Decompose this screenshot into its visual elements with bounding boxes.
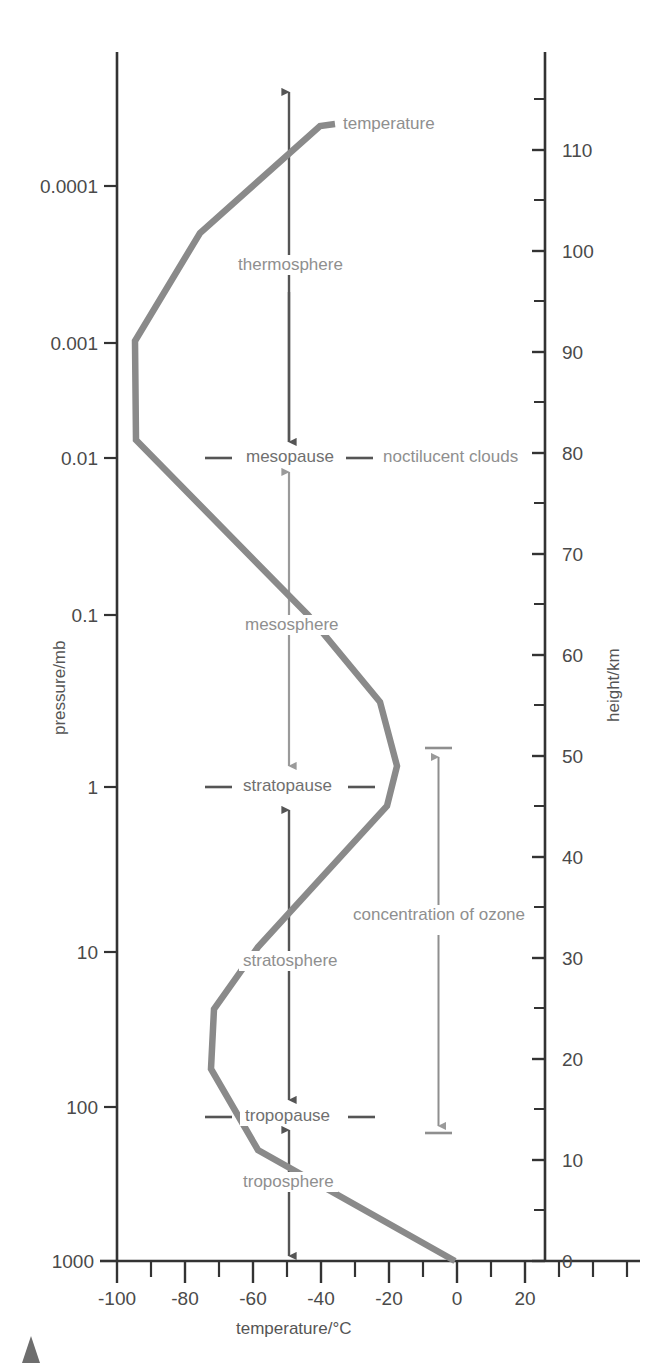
y-right-tick-50: 50 [562, 746, 583, 768]
layer-label-troposphere: troposphere [239, 1172, 338, 1192]
y-right-tick-40: 40 [562, 847, 583, 869]
annotation-noctilucent-clouds: noctilucent clouds [383, 447, 518, 467]
y-right-tick-10: 10 [562, 1150, 583, 1172]
y-right-tick-30: 30 [562, 948, 583, 970]
y-left-axis-title: pressure/mb [50, 641, 70, 735]
y-right-tick-60: 60 [562, 645, 583, 667]
y-left-tick-0.0001: 0.0001 [18, 176, 98, 198]
x-tick--60: -60 [223, 1288, 283, 1310]
x-tick-20: 20 [495, 1288, 555, 1310]
x-tick--40: -40 [291, 1288, 351, 1310]
y-left-tick-1000: 1000 [14, 1251, 94, 1273]
temperature-curve [135, 124, 455, 1261]
y-right-tick-0: 0 [562, 1251, 573, 1273]
right-axis [532, 52, 545, 1261]
y-left-tick-100: 100 [18, 1097, 98, 1119]
x-tick--20: -20 [359, 1288, 419, 1310]
layer-label-mesosphere: mesosphere [241, 615, 343, 635]
left-axis [100, 52, 117, 1261]
x-axis-title: temperature/°C [236, 1319, 351, 1339]
y-right-tick-110: 110 [562, 140, 592, 162]
x-tick--100: -100 [87, 1288, 147, 1310]
y-right-tick-100: 100 [562, 241, 594, 263]
layer-label-stratosphere: stratosphere [239, 951, 342, 971]
boundary-label-stratopause: stratopause [238, 776, 337, 796]
series-label-temperature: temperature [343, 114, 435, 134]
atmosphere-temperature-profile-figure: 0.0001 0.001 0.01 0.1 1 10 100 1000 pres… [0, 0, 662, 1371]
boundary-label-mesopause: mesopause [241, 447, 339, 467]
y-left-tick-10: 10 [18, 942, 98, 964]
annotation-concentration-of-ozone: concentration of ozone [353, 905, 525, 925]
y-left-tick-1: 1 [18, 777, 98, 799]
boundary-label-tropopause: tropopause [240, 1106, 335, 1126]
layer-label-thermosphere: thermosphere [234, 255, 347, 275]
y-right-tick-70: 70 [562, 544, 583, 566]
y-left-tick-0.001: 0.001 [18, 333, 98, 355]
ozone-concentration-arrow [425, 748, 452, 1133]
y-left-tick-0.01: 0.01 [18, 448, 98, 470]
x-tick--80: -80 [155, 1288, 215, 1310]
y-right-tick-20: 20 [562, 1049, 583, 1071]
y-right-tick-90: 90 [562, 342, 583, 364]
triangle-up-icon [22, 1336, 40, 1363]
y-left-tick-0.1: 0.1 [18, 605, 98, 627]
y-right-axis-title: height/km [604, 648, 624, 722]
x-tick-0: 0 [427, 1288, 487, 1310]
y-right-tick-80: 80 [562, 443, 583, 465]
